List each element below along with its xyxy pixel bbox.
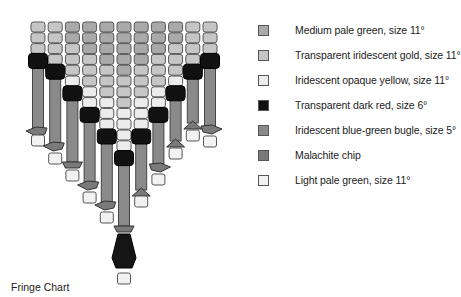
swatch-icon <box>258 175 269 186</box>
seed-bead <box>134 108 148 118</box>
bugle-bead <box>205 62 216 126</box>
seed-bead <box>100 98 114 108</box>
seed-bead <box>134 98 148 108</box>
seed-bead <box>31 22 45 32</box>
seed-bead <box>65 33 79 43</box>
seed-bead <box>65 54 79 64</box>
bugle-bead <box>67 95 78 162</box>
legend-item-light-pale-green: Light pale green, size 11° <box>258 175 448 189</box>
seed-bead <box>151 54 165 64</box>
end-bead <box>204 136 217 147</box>
swatch-icon <box>258 75 269 86</box>
legend-label: Light pale green, size 11° <box>295 174 410 186</box>
seed-bead <box>83 22 97 32</box>
seed-bead <box>117 22 131 32</box>
seed-bead <box>48 44 62 54</box>
dark-red-bead <box>132 129 151 144</box>
bugle-bead <box>84 116 95 182</box>
seed-bead <box>100 87 114 97</box>
legend-label: Medium pale green, size 11° <box>295 24 425 36</box>
legend-item-malachite-chip: Malachite chip <box>258 150 448 164</box>
end-bead <box>49 153 62 164</box>
seed-bead <box>186 44 200 54</box>
dark-red-bead <box>149 107 168 122</box>
seed-bead <box>117 65 131 75</box>
legend-item-transparent-iridescent-gold: Transparent iridescent gold, size 11° <box>258 50 448 64</box>
malachite-chip <box>149 163 170 172</box>
seed-bead <box>83 44 97 54</box>
bugle-bead <box>170 95 181 141</box>
seed-bead <box>117 119 131 129</box>
seed-bead <box>169 33 183 43</box>
seed-bead <box>100 119 114 129</box>
malachite-chip <box>62 162 82 168</box>
end-bead <box>66 170 79 181</box>
seed-bead <box>48 22 62 32</box>
seed-bead <box>117 108 131 118</box>
seed-bead <box>151 76 165 86</box>
dark-red-bead <box>201 53 220 68</box>
seed-bead <box>151 98 165 108</box>
seed-bead <box>203 33 217 43</box>
end-bead <box>32 135 45 146</box>
seed-bead <box>48 54 62 64</box>
seed-bead <box>100 76 114 86</box>
seed-bead <box>83 33 97 43</box>
bugle-bead <box>50 73 61 143</box>
seed-bead <box>169 76 183 86</box>
seed-bead <box>151 22 165 32</box>
legend-label: Iridescent opaque yellow, size 11° <box>295 74 449 86</box>
seed-bead <box>100 108 114 118</box>
seed-bead <box>186 22 200 32</box>
legend-item-medium-pale-green: Medium pale green, size 11° <box>258 25 448 39</box>
seed-bead <box>65 22 79 32</box>
legend-label: Transparent iridescent gold, size 11° <box>295 49 461 61</box>
seed-bead <box>134 33 148 43</box>
dark-red-bead <box>115 151 134 166</box>
dark-red-bead <box>80 107 99 122</box>
dark-red-bead <box>97 129 116 144</box>
seed-bead <box>117 130 131 140</box>
end-bead <box>118 273 131 284</box>
seed-bead <box>83 87 97 97</box>
seed-bead <box>134 22 148 32</box>
dark-red-bead <box>46 64 65 79</box>
dark-red-pendant <box>112 234 136 268</box>
seed-bead <box>100 33 114 43</box>
seed-bead <box>169 65 183 75</box>
seed-bead <box>31 33 45 43</box>
seed-bead <box>117 54 131 64</box>
dark-red-bead <box>183 64 202 79</box>
dark-red-bead <box>63 86 82 101</box>
end-bead <box>169 148 182 159</box>
dark-red-bead <box>166 86 185 101</box>
seed-bead <box>117 76 131 86</box>
legend-label: Malachite chip <box>295 149 361 161</box>
malachite-chip <box>132 188 150 196</box>
malachite-chip <box>95 201 116 210</box>
end-bead <box>186 130 199 141</box>
malachite-chip <box>184 121 202 129</box>
legend-item-iridescent-opaque-yellow: Iridescent opaque yellow, size 11° <box>258 75 448 89</box>
seed-bead <box>151 65 165 75</box>
seed-bead <box>169 22 183 32</box>
seed-bead <box>117 141 131 151</box>
seed-bead <box>65 44 79 54</box>
seed-bead <box>134 65 148 75</box>
legend-item-transparent-dark-red: Transparent dark red, size 6° <box>258 100 448 114</box>
legend-label: Iridescent blue-green bugle, size 5° <box>295 124 456 136</box>
seed-bead <box>186 54 200 64</box>
seed-bead <box>186 33 200 43</box>
malachite-chip <box>114 226 134 232</box>
end-bead <box>135 196 148 207</box>
swatch-icon <box>258 150 269 161</box>
seed-bead <box>203 22 217 32</box>
seed-bead <box>151 44 165 54</box>
seed-bead <box>83 76 97 86</box>
bugle-bead <box>33 62 44 128</box>
end-bead <box>83 192 96 203</box>
legend-item-blue-green-bugle: Iridescent blue-green bugle, size 5° <box>258 125 448 139</box>
end-bead <box>100 212 113 223</box>
seed-bead <box>100 22 114 32</box>
